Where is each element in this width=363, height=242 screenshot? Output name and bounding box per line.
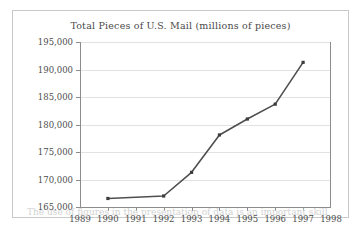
y-axis-tick-label: 175,000 <box>38 147 73 157</box>
data-point-marker <box>190 171 193 174</box>
series-markers <box>106 61 304 200</box>
y-axis-tick-label: 195,000 <box>38 37 73 47</box>
plot-area: 165,000170,000175,000180,000185,000190,0… <box>80 42 331 207</box>
y-axis-tick-label: 185,000 <box>38 92 73 102</box>
y-axis-tick-label: 180,000 <box>38 120 73 130</box>
y-axis-tick-label: 170,000 <box>38 175 73 185</box>
data-point-marker <box>246 117 249 120</box>
chart-title: Total Pieces of U.S. Mail (millions of p… <box>13 20 348 31</box>
y-axis-tick-label: 190,000 <box>38 65 73 75</box>
data-point-marker <box>274 103 277 106</box>
data-point-marker <box>218 133 221 136</box>
data-point-marker <box>106 197 109 200</box>
figure-frame: Total Pieces of U.S. Mail (millions of p… <box>12 10 349 218</box>
data-series-svg <box>80 42 331 207</box>
series-line <box>108 62 303 198</box>
figure-bottom-caption: The use of figures in the presentation o… <box>27 207 363 219</box>
data-point-marker <box>302 61 305 64</box>
data-point-marker <box>162 194 165 197</box>
